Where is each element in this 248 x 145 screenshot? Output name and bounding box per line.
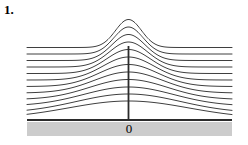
gaussian-curve	[27, 42, 232, 67]
curve-family	[27, 20, 232, 115]
gaussian-curve	[27, 72, 232, 93]
figure-container: 1. 0	[0, 0, 248, 145]
gaussian-curve	[27, 101, 232, 115]
gaussian-curve	[27, 50, 232, 74]
gaussian-curve	[27, 80, 232, 99]
origin-tick-label: 0	[123, 122, 135, 135]
gaussian-curve	[27, 65, 232, 87]
gaussian-curve	[27, 20, 232, 48]
